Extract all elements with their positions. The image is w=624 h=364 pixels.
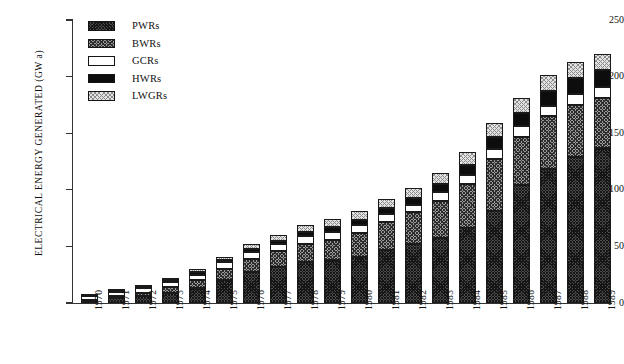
bar-segment-bwrs-1983 <box>432 201 448 238</box>
bar-segment-lwgrs-1984 <box>459 152 475 164</box>
legend-label-hwrs: HWRs <box>132 73 161 84</box>
x-tick-label-1973: 1973 <box>175 264 185 310</box>
bar-segment-hwrs-1984 <box>459 165 475 175</box>
bar-segment-lwgrs-1987 <box>540 75 556 91</box>
bar-segment-hwrs-1985 <box>486 137 502 149</box>
bar-segment-hwrs-1982 <box>405 198 421 205</box>
chart-legend: PWRs BWRs GCRs HWRs LWGRs <box>88 17 167 105</box>
x-tick-label-1972: 1972 <box>148 264 158 310</box>
bar-segment-bwrs-1986 <box>513 137 529 186</box>
bar-segment-gcrs-1978 <box>297 236 313 244</box>
y-axis-title: ELECTRICAL ENERGY GENERATED (GW a) <box>34 28 44 278</box>
bar-segment-bwrs-1980 <box>351 233 367 257</box>
legend-item-hwrs[interactable]: HWRs <box>88 70 167 88</box>
x-tick-label-1977: 1977 <box>283 264 293 310</box>
bar-segment-bwrs-1982 <box>405 212 421 244</box>
bar-segment-lwgrs-1981 <box>378 199 394 208</box>
x-tick-label-1970: 1970 <box>94 264 104 310</box>
bar-segment-gcrs-1984 <box>459 175 475 184</box>
x-tick-label-1976: 1976 <box>256 264 266 310</box>
bar-segment-hwrs-1983 <box>432 184 448 192</box>
x-tick-label-1978: 1978 <box>310 264 320 310</box>
legend-swatch-bwrs-icon <box>88 39 115 49</box>
bar-segment-lwgrs-1978 <box>297 225 313 232</box>
legend-label-pwrs: PWRs <box>132 20 160 31</box>
x-tick-label-1986: 1986 <box>526 264 536 310</box>
legend-item-pwrs[interactable]: PWRs <box>88 17 167 35</box>
legend-swatch-gcrs-icon <box>88 56 115 66</box>
x-tick-label-1980: 1980 <box>364 264 374 310</box>
bar-segment-hwrs-1988 <box>567 78 583 94</box>
legend-label-lwgrs: LWGRs <box>132 90 167 101</box>
bar-segment-hwrs-1987 <box>540 91 556 106</box>
bar-segment-lwgrs-1983 <box>432 173 448 184</box>
bar-segment-bwrs-1989 <box>594 98 610 148</box>
legend-item-lwgrs[interactable]: LWGRs <box>88 87 167 105</box>
bar-segment-hwrs-1979 <box>324 227 340 232</box>
bar-segment-gcrs-1981 <box>378 214 394 222</box>
bar-segment-bwrs-1988 <box>567 105 583 157</box>
x-tick-label-1982: 1982 <box>418 264 428 310</box>
bar-segment-hwrs-1980 <box>351 220 367 225</box>
bar-segment-lwgrs-1986 <box>513 98 529 113</box>
x-tick-label-1985: 1985 <box>499 264 509 310</box>
x-tick-label-1983: 1983 <box>445 264 455 310</box>
bar-segment-hwrs-1978 <box>297 232 313 237</box>
stacked-bar-chart: ELECTRICAL ENERGY GENERATED (GW a) 05010… <box>0 0 624 364</box>
bar-segment-bwrs-1985 <box>486 159 502 211</box>
bar-segment-gcrs-1976 <box>243 252 259 259</box>
bar-segment-bwrs-1981 <box>378 222 394 250</box>
bar-segment-hwrs-1977 <box>270 241 286 244</box>
bar-segment-lwgrs-1975 <box>216 257 232 260</box>
x-tick-label-1981: 1981 <box>391 264 401 310</box>
bar-segment-hwrs-1986 <box>513 113 529 127</box>
bar-segment-gcrs-1980 <box>351 225 367 233</box>
bar-segment-gcrs-1985 <box>486 149 502 159</box>
bar-segment-gcrs-1979 <box>324 232 340 240</box>
x-tick-label-1984: 1984 <box>472 264 482 310</box>
x-tick-label-1988: 1988 <box>580 264 590 310</box>
bar-segment-gcrs-1988 <box>567 94 583 105</box>
legend-swatch-lwgrs-icon <box>88 91 115 101</box>
legend-label-gcrs: GCRs <box>132 55 158 66</box>
bar-segment-lwgrs-1976 <box>243 244 259 249</box>
bar-segment-lwgrs-1985 <box>486 123 502 137</box>
x-tick-label-1975: 1975 <box>229 264 239 310</box>
bar-segment-hwrs-1975 <box>216 260 232 262</box>
bar-segment-gcrs-1987 <box>540 106 556 116</box>
bar-segment-bwrs-1984 <box>459 184 475 228</box>
bar-segment-bwrs-1987 <box>540 116 556 169</box>
bar-segment-gcrs-1989 <box>594 87 610 98</box>
legend-swatch-pwrs-icon <box>88 21 115 31</box>
bar-segment-lwgrs-1979 <box>324 219 340 227</box>
bar-segment-gcrs-1986 <box>513 126 529 136</box>
bar-segment-bwrs-1978 <box>297 244 313 262</box>
bar-segment-hwrs-1981 <box>378 208 394 214</box>
x-tick-label-1989: 1989 <box>607 264 617 310</box>
legend-item-gcrs[interactable]: GCRs <box>88 52 167 70</box>
bar-segment-lwgrs-1980 <box>351 211 367 220</box>
bar-segment-lwgrs-1989 <box>594 54 610 70</box>
legend-label-bwrs: BWRs <box>132 38 161 49</box>
bar-segment-hwrs-1989 <box>594 70 610 87</box>
x-tick-label-1971: 1971 <box>121 264 131 310</box>
bar-segment-gcrs-1983 <box>432 192 448 201</box>
bar-segment-gcrs-1982 <box>405 205 421 213</box>
bar-segment-gcrs-1977 <box>270 244 286 251</box>
bar-segment-lwgrs-1977 <box>270 235 286 241</box>
x-tick-label-1987: 1987 <box>553 264 563 310</box>
x-tick-label-1974: 1974 <box>202 264 212 310</box>
legend-swatch-hwrs-icon <box>88 74 115 84</box>
bar-segment-bwrs-1979 <box>324 240 340 260</box>
legend-item-bwrs[interactable]: BWRs <box>88 35 167 53</box>
bar-segment-lwgrs-1988 <box>567 62 583 78</box>
bar-segment-hwrs-1976 <box>243 249 259 252</box>
bar-segment-lwgrs-1982 <box>405 188 421 198</box>
x-tick-label-1979: 1979 <box>337 264 347 310</box>
